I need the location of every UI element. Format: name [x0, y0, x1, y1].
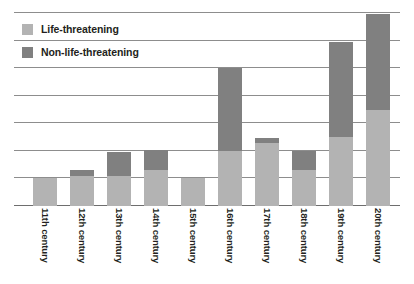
bar-segment-non-life-threatening[interactable] [218, 68, 242, 151]
legend-item-label: Life-threatening [41, 23, 119, 35]
x-axis-tick-label: 18th century [299, 208, 310, 263]
chart-container: Life-threateningNon-life-threatening 11t… [0, 0, 414, 284]
bar-segment-life-threatening[interactable] [33, 178, 57, 206]
bar-segment-non-life-threatening[interactable] [292, 151, 316, 170]
legend-item-non_life_threatening[interactable]: Non-life-threatening [22, 43, 222, 61]
x-axis-tick-label: 15th century [188, 208, 199, 263]
bar-segment-life-threatening[interactable] [181, 178, 205, 206]
bar-group[interactable] [218, 68, 242, 206]
x-axis-tick-label: 13th century [114, 208, 125, 263]
x-axis-tick-label: 16th century [225, 208, 236, 263]
legend-item-life_threatening[interactable]: Life-threatening [22, 20, 222, 38]
bar-segment-non-life-threatening[interactable] [329, 42, 353, 137]
bar-segment-life-threatening[interactable] [144, 170, 168, 206]
legend-swatch-icon [22, 24, 33, 35]
x-axis-tick-label: 19th century [336, 208, 347, 263]
bar-segment-life-threatening[interactable] [70, 176, 94, 206]
x-axis-tick-label: 12th century [77, 208, 88, 263]
bar-group[interactable] [329, 42, 353, 206]
bar-segment-life-threatening[interactable] [329, 137, 353, 206]
bar-segment-life-threatening[interactable] [107, 176, 131, 206]
chart-legend: Life-threateningNon-life-threatening [22, 20, 222, 66]
bar-segment-life-threatening[interactable] [255, 143, 279, 206]
bar-segment-life-threatening[interactable] [366, 110, 390, 207]
x-axis-tick-label: 11th century [40, 208, 51, 263]
bar-group[interactable] [292, 151, 316, 206]
x-axis-tick-labels: 11th century12th century13th century14th… [14, 208, 400, 284]
bar-segment-non-life-threatening[interactable] [107, 152, 131, 175]
bar-segment-life-threatening[interactable] [292, 170, 316, 206]
bar-group[interactable] [70, 170, 94, 206]
bar-group[interactable] [255, 138, 279, 206]
bar-group[interactable] [107, 152, 131, 206]
x-axis-tick-label: 17th century [262, 208, 273, 263]
bar-group[interactable] [144, 150, 168, 207]
legend-item-label: Non-life-threatening [41, 46, 139, 58]
x-axis-tick-label: 20th century [373, 208, 384, 263]
bar-segment-non-life-threatening[interactable] [366, 14, 390, 109]
bar-group[interactable] [33, 178, 57, 206]
bar-group[interactable] [366, 14, 390, 206]
legend-swatch-icon [22, 47, 33, 58]
bar-group[interactable] [181, 178, 205, 206]
bar-segment-life-threatening[interactable] [218, 151, 242, 206]
x-axis-tick-label: 14th century [151, 208, 162, 263]
bar-segment-non-life-threatening[interactable] [144, 150, 168, 171]
